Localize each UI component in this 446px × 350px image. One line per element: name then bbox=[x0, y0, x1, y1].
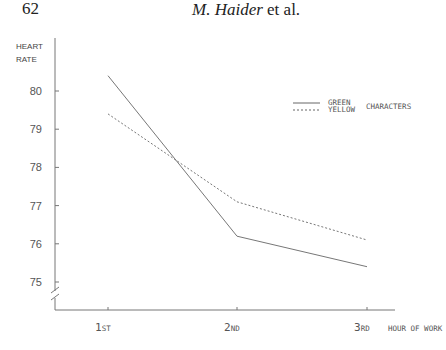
y-tick-label: 79 bbox=[30, 123, 42, 135]
series-yellow-line bbox=[108, 114, 367, 240]
y-tick-label: 76 bbox=[30, 238, 42, 250]
x-axis-label: HOUR OF WORK bbox=[388, 324, 443, 333]
y-axis-label-line1: HEART bbox=[16, 42, 43, 51]
legend: GREEN YELLOW CHARACTERS bbox=[293, 98, 412, 114]
y-tick-label: 77 bbox=[30, 200, 42, 212]
y-tick-label: 75 bbox=[30, 276, 42, 288]
legend-yellow-label: YELLOW bbox=[328, 105, 356, 114]
legend-characters-label: CHARACTERS bbox=[366, 102, 412, 111]
x-tick-label: 2ND bbox=[224, 321, 240, 334]
y-axis-label-line2: RATE bbox=[16, 55, 37, 64]
y-tick-label: 80 bbox=[30, 85, 42, 97]
x-ticks: 1ST2ND3RD bbox=[95, 307, 370, 334]
heart-rate-chart: HEART RATE 757677787980 1ST2ND3RD GREEN … bbox=[0, 0, 446, 350]
x-tick-label: 1ST bbox=[95, 321, 111, 334]
x-tick-label: 3RD bbox=[354, 321, 370, 334]
y-tick-label: 78 bbox=[30, 161, 42, 173]
